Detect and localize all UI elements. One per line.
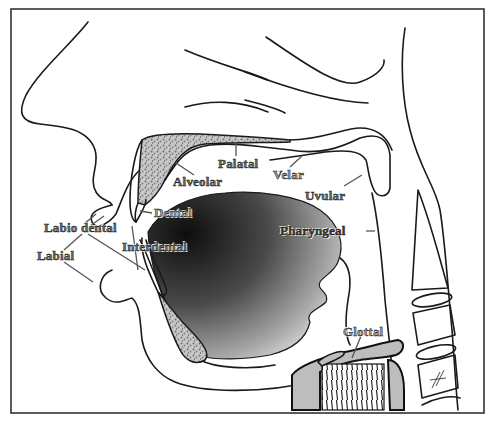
nasal-turbinate-1 (266, 37, 384, 83)
label-velar: Velar (273, 168, 304, 181)
label-labial: Labial (37, 249, 74, 262)
vocal-tract-diagram (0, 0, 495, 423)
label-glottal: Glottal (343, 325, 383, 338)
leader-uvular (344, 175, 362, 186)
larynx-right (388, 360, 404, 410)
label-alveolar: Alveolar (173, 175, 222, 188)
neck-back-outline (402, 28, 458, 410)
label-interdental: Interdental (122, 240, 187, 253)
vertebra-disc-3 (422, 397, 460, 405)
nasal-turbinate-2 (245, 72, 368, 103)
signature-mark (430, 370, 446, 388)
nasal-line-lower (185, 102, 268, 112)
leader-labial-2 (64, 262, 93, 282)
label-labiodental: Labio dental (44, 221, 117, 234)
face-profile-nose (22, 22, 112, 205)
label-palatal: Palatal (218, 157, 258, 170)
label-dental: Dental (154, 206, 192, 219)
vocal-folds (322, 364, 384, 410)
vertebra-disc-2 (415, 342, 457, 362)
label-pharyngeal: Pharyngeal (280, 224, 346, 237)
label-uvular: Uvular (305, 189, 345, 202)
vertebra-1 (412, 190, 448, 290)
vertebra-2 (413, 305, 455, 345)
